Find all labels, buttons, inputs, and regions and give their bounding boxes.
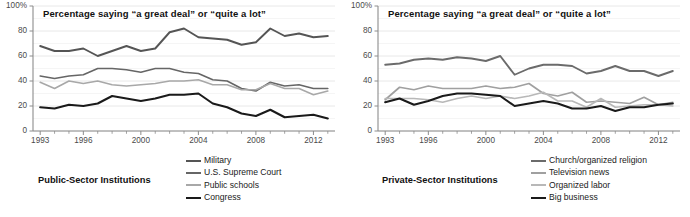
legend-item-label: Big business: [549, 192, 598, 203]
legend-item: Military: [186, 155, 281, 166]
x-axis-tick-label: 2012: [296, 136, 330, 145]
public-sector-caption: Public-Sector Institutions: [38, 175, 151, 185]
legend-item: Television news: [531, 167, 647, 178]
confidence-in-institutions-figure: Percentage saying “a great deal” or “qui…: [0, 0, 690, 217]
legend-item-label: Church/organized religion: [549, 155, 647, 166]
legend-line-swatch: [531, 160, 546, 162]
y-axis-tick-label: 20: [0, 101, 27, 110]
legend-item: Organized labor: [531, 180, 647, 191]
legend-item: Big business: [531, 192, 647, 203]
legend-item-label: Organized labor: [549, 180, 610, 191]
x-axis-tick-label: 2000: [469, 136, 503, 145]
legend-line-swatch: [531, 197, 546, 199]
legend-item: U.S. Supreme Court: [186, 167, 281, 178]
private-sector-caption: Private-Sector Institutions: [382, 175, 498, 185]
x-axis-tick-label: 2004: [526, 136, 560, 145]
y-axis-tick-label: 20: [345, 101, 372, 110]
x-axis-tick-label: 2004: [181, 136, 215, 145]
public-sector-legend: Military U.S. Supreme Court Public schoo…: [186, 155, 281, 203]
legend-line-swatch: [531, 172, 546, 174]
y-axis-tick-label: 40: [345, 76, 372, 85]
y-axis-tick-label: 80: [345, 26, 372, 35]
legend-line-swatch: [186, 197, 201, 199]
y-axis-tick-label: 0: [0, 126, 27, 135]
panel-private-sector: Percentage saying “a great deal” or “qui…: [345, 0, 690, 217]
x-axis-tick-label: 1996: [411, 136, 445, 145]
legend-line-swatch: [186, 184, 201, 186]
legend-item-label: Military: [204, 155, 231, 166]
private-sector-plot-title: Percentage saying “a great deal” or “qui…: [388, 8, 611, 19]
panel-public-sector: Percentage saying “a great deal” or “qui…: [0, 0, 345, 217]
x-axis-tick-label: 1993: [368, 136, 402, 145]
legend-line-swatch: [531, 184, 546, 186]
legend-line-swatch: [186, 172, 201, 174]
legend-item: Church/organized religion: [531, 155, 647, 166]
x-axis-tick-label: 2008: [239, 136, 273, 145]
private-sector-legend: Church/organized religion Television new…: [531, 155, 647, 203]
y-axis-tick-label: 100%: [0, 1, 27, 10]
x-axis-tick-label: 2000: [124, 136, 158, 145]
x-axis-tick-label: 1993: [23, 136, 57, 145]
y-axis-tick-label: 60: [0, 51, 27, 60]
y-axis-tick-label: 0: [345, 126, 372, 135]
legend-item-label: U.S. Supreme Court: [204, 167, 281, 178]
x-axis-tick-label: 1996: [66, 136, 100, 145]
y-axis-tick-label: 80: [0, 26, 27, 35]
public-sector-plot-title: Percentage saying “a great deal” or “qui…: [43, 8, 266, 19]
x-axis-tick-label: 2012: [641, 136, 675, 145]
y-axis-tick-label: 40: [0, 76, 27, 85]
legend-item-label: Television news: [549, 167, 609, 178]
legend-item-label: Public schools: [204, 180, 259, 191]
y-axis-tick-label: 60: [345, 51, 372, 60]
legend-line-swatch: [186, 160, 201, 162]
legend-item-label: Congress: [204, 192, 241, 203]
x-axis-tick-label: 2008: [584, 136, 618, 145]
legend-item: Public schools: [186, 180, 281, 191]
y-axis-tick-label: 100%: [345, 1, 372, 10]
legend-item: Congress: [186, 192, 281, 203]
